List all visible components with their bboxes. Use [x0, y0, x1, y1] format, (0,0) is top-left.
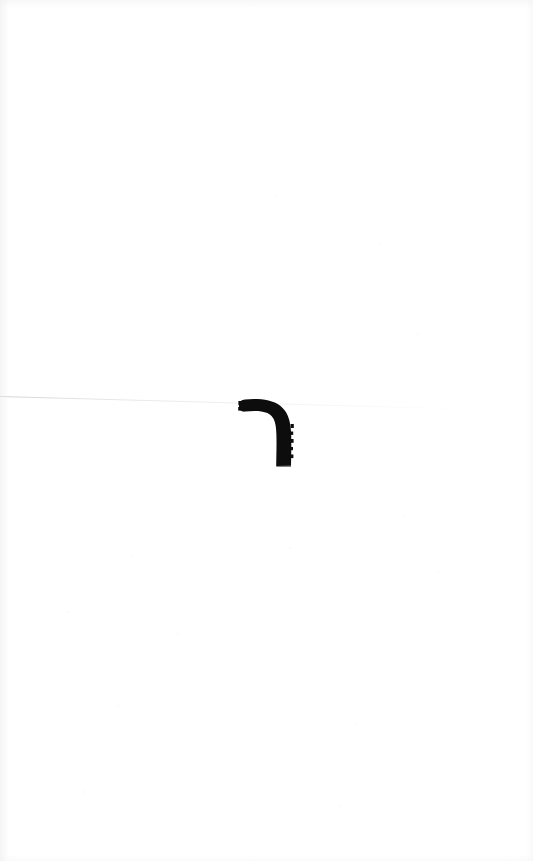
hook-glyph-ink-mark: [236, 398, 298, 468]
ghost-text-top-left: ···· ··· ··: [62, 70, 111, 85]
ghost-text-middle-right: ·· ···: [322, 168, 345, 183]
ghost-text-top-middle: ·· ···· ·: [196, 74, 233, 89]
scanned-page: ···· ··· ·· ·· ···· · ···· ·· ··· ·· ···…: [0, 0, 533, 861]
ghost-text-top-right: ···· ·· ···: [330, 66, 376, 81]
hook-glyph-icon: [236, 398, 298, 468]
ghost-text-lower-left: · ··: [96, 580, 111, 595]
